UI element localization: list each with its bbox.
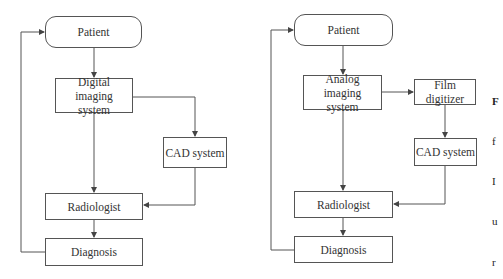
radiologist-label: Radiologist xyxy=(67,200,120,214)
diagnosis-label: Diagnosis xyxy=(321,243,367,257)
cad-system-node: CAD system xyxy=(163,137,227,168)
patient-node: Patient xyxy=(294,14,393,46)
film-digitizer-node: Film digitizer xyxy=(414,79,476,105)
cad-system-label: CAD system xyxy=(416,145,475,159)
diagnosis-node: Diagnosis xyxy=(45,238,143,266)
cad-system-label: CAD system xyxy=(165,146,224,160)
caption-line: I xyxy=(492,175,503,188)
caption-line: f xyxy=(492,135,503,148)
digital-imaging-system-node: Digital imaging system xyxy=(55,78,133,113)
analog-imaging-system-node: Analog imaging system xyxy=(303,75,382,110)
patient-label: Patient xyxy=(78,25,110,39)
film-digitizer-label: Film digitizer xyxy=(415,78,475,106)
cad-system-node: CAD system xyxy=(414,138,477,166)
caption-line: F xyxy=(492,95,503,108)
radiologist-node: Radiologist xyxy=(45,193,143,220)
patient-node: Patient xyxy=(45,16,142,48)
figure-caption-fragment: F f I u r t t g a r l c c t r xyxy=(492,68,503,279)
diagnosis-label: Diagnosis xyxy=(71,245,117,259)
analog-imaging-system-label: Analog imaging system xyxy=(308,72,377,114)
radiologist-node: Radiologist xyxy=(294,191,393,218)
diagnosis-node: Diagnosis xyxy=(294,236,393,263)
patient-label: Patient xyxy=(328,23,360,37)
digital-imaging-system-label: Digital imaging system xyxy=(60,75,128,117)
caption-line: r xyxy=(492,256,503,269)
caption-line: u xyxy=(492,215,503,228)
radiologist-label: Radiologist xyxy=(317,198,370,212)
